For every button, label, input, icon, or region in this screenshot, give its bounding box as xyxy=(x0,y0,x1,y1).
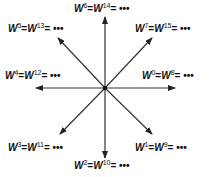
label-w6: W6=W14= ••• xyxy=(74,4,130,14)
label-w2: W2=W10= ••• xyxy=(74,161,130,171)
label-w5: W5=W13= ••• xyxy=(8,24,64,34)
label-w4: W4=W12= ••• xyxy=(5,71,61,81)
arrow-5 xyxy=(58,38,105,88)
arrow-3 xyxy=(60,88,105,134)
label-w7: W7=W15= ••• xyxy=(135,24,191,34)
label-w3: W3=W11= ••• xyxy=(8,143,63,153)
arrow-1 xyxy=(105,88,152,134)
label-w0: W0=W8= ••• xyxy=(142,71,194,81)
center-point xyxy=(103,86,107,90)
twiddle-factor-diagram: W0=W8= •••W1=W9= •••W2=W10= •••W3=W11= •… xyxy=(0,0,209,177)
label-w1: W1=W9= ••• xyxy=(135,143,187,153)
